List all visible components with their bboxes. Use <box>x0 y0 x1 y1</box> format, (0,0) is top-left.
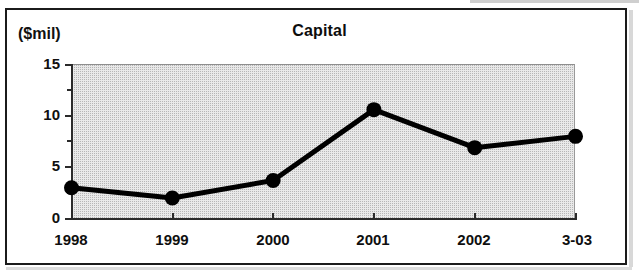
x-tick-label-1999: 1999 <box>127 231 217 248</box>
y-tick-minor-2-5 <box>67 192 73 194</box>
y-tick-label-15: 15 <box>16 55 60 72</box>
chart-figure: ($mil) Capital 15 10 5 0 1998 1999 2000 … <box>0 0 639 274</box>
y-tick-15 <box>65 64 73 66</box>
scan-artifact-bottom <box>6 267 632 270</box>
chart-title: Capital <box>0 22 639 40</box>
plot-background <box>72 64 575 219</box>
x-tick-1999 <box>172 213 174 220</box>
x-axis-line <box>71 218 576 220</box>
y-tick-label-0: 0 <box>16 209 60 226</box>
y-tick-10 <box>65 115 73 117</box>
y-tick-label-10: 10 <box>16 106 60 123</box>
x-tick-label-3-03: 3-03 <box>532 231 622 248</box>
x-tick-label-2002: 2002 <box>429 231 519 248</box>
x-tick-1998 <box>71 213 73 220</box>
y-tick-minor-12-5 <box>67 89 73 91</box>
x-tick-2000 <box>272 213 274 220</box>
x-tick-3-03 <box>575 213 577 220</box>
scan-artifact-right <box>629 10 633 267</box>
y-axis-line <box>71 64 73 220</box>
x-tick-label-1998: 1998 <box>26 231 116 248</box>
plot-area <box>72 64 575 219</box>
x-tick-label-2000: 2000 <box>228 231 318 248</box>
x-tick-2002 <box>474 213 476 220</box>
x-tick-label-2001: 2001 <box>328 231 418 248</box>
y-tick-minor-7-5 <box>67 140 73 142</box>
y-tick-5 <box>65 166 73 168</box>
y-tick-label-5: 5 <box>16 157 60 174</box>
x-tick-2001 <box>373 213 375 220</box>
scan-artifact-top <box>470 0 639 3</box>
